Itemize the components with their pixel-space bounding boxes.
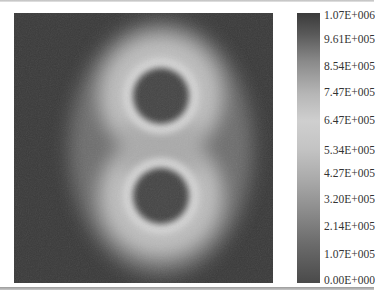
colorbar-tick-label: 1.07E+005 xyxy=(324,248,375,260)
colorbar-tick-label: 7.47E+005 xyxy=(324,86,375,98)
colorbar xyxy=(297,13,320,283)
colorbar-tick-label: 6.47E+005 xyxy=(324,114,375,126)
colorbar-tick-label: 2.14E+005 xyxy=(324,220,375,232)
colorbar-tick-label: 1.07E+006 xyxy=(324,9,375,21)
heatmap-plot xyxy=(14,13,273,283)
colorbar-tick-label: 9.61E+005 xyxy=(324,33,375,45)
heatmap-image xyxy=(14,13,273,283)
colorbar-tick-label: 3.20E+005 xyxy=(324,193,375,205)
bottom-border xyxy=(0,287,374,290)
colorbar-tick-label: 4.27E+005 xyxy=(324,167,375,179)
top-border xyxy=(0,0,374,2)
colorbar-tick-label: 0.00E+000 xyxy=(324,274,375,286)
colorbar-tick-label: 8.54E+005 xyxy=(324,60,375,72)
colorbar-tick-label: 5.34E+005 xyxy=(324,144,375,156)
